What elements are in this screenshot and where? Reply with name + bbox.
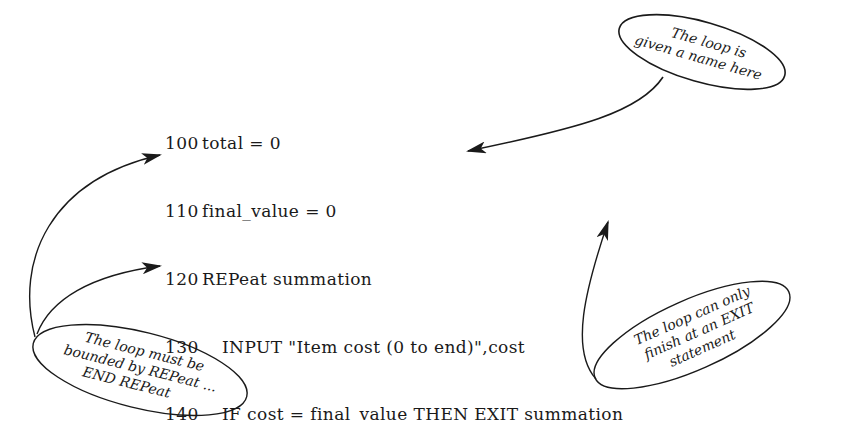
arrow-to-repeat: [468, 77, 663, 151]
callout-loop-exit: The loop can only finish at an EXIT stat…: [581, 260, 803, 410]
arrow-to-repeat-start: [30, 155, 160, 337]
arrow-to-repeat-end: [37, 266, 160, 334]
annotation-layer: The loop is given a name here The loop m…: [0, 0, 854, 422]
callout-loop-bounded: The loop must be bounded by REPeat ... E…: [24, 307, 256, 422]
arrow-to-exit: [582, 222, 608, 379]
callout-loop-name: The loop is given a name here: [611, 0, 793, 105]
